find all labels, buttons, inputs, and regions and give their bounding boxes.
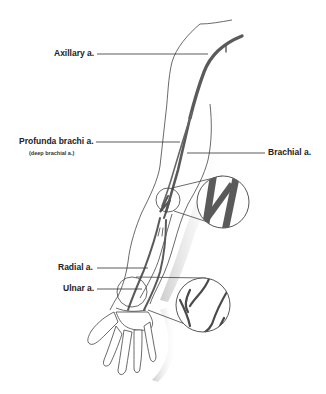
hand-outline — [88, 312, 156, 375]
label-brachial: Brachial a. — [268, 148, 311, 157]
axillary-artery — [190, 36, 242, 118]
label-profunda-subtext: (deep brachial a.) — [29, 151, 74, 157]
label-axillary: Axillary a. — [54, 49, 94, 58]
label-radial: Radial a. — [58, 263, 93, 272]
arm-shadow — [152, 106, 223, 382]
label-ulnar: Ulnar a. — [63, 284, 94, 293]
radial-artery — [128, 218, 160, 310]
label-profunda-brachi: Profunda brachi a. — [19, 137, 94, 146]
brachial-artery — [166, 118, 190, 212]
arm-artery-diagram — [0, 0, 326, 394]
arteries — [128, 36, 242, 310]
